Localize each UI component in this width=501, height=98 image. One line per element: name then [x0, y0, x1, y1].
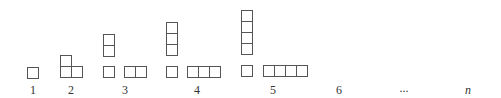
square-cell	[166, 44, 178, 56]
label-3: 3	[122, 84, 128, 96]
label-6: 6	[336, 84, 342, 96]
square-cell	[71, 66, 83, 78]
square-cell	[296, 65, 308, 77]
label-n: n	[465, 84, 471, 96]
square-cell	[166, 66, 178, 78]
square-cell	[241, 43, 253, 55]
label-1: 1	[30, 84, 36, 96]
square-cell	[135, 66, 147, 78]
square-cell	[103, 66, 115, 78]
label-2: 2	[68, 84, 74, 96]
square-cell	[27, 67, 39, 79]
polyomino-sequence-diagram	[0, 0, 501, 98]
label-ellipsis: ...	[400, 82, 409, 94]
label-5: 5	[270, 84, 276, 96]
square-cell	[241, 65, 253, 77]
label-4: 4	[194, 84, 200, 96]
square-cell	[103, 45, 115, 57]
square-cell	[209, 66, 221, 78]
